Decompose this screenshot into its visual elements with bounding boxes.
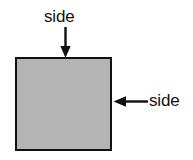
- side-label-right: side: [149, 92, 179, 109]
- diagram-canvas: side side: [0, 0, 193, 160]
- square-shape: [15, 57, 112, 151]
- arrow-down-icon: [56, 27, 76, 59]
- side-label-top: side: [44, 8, 74, 25]
- arrow-left-icon: [112, 94, 148, 109]
